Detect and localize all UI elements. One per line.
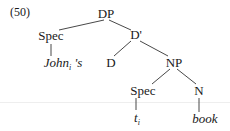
leaf-trace: ti [134,111,140,124]
node-dbar: D' [130,28,142,41]
node-spec-lower: Spec [130,84,155,97]
edge-dbar-np [140,41,168,56]
edge-dp-dbar [109,20,131,30]
node-n: N [194,84,203,97]
example-number: (50) [10,6,30,19]
node-dp: DP [98,7,115,20]
edge-np-n [177,69,196,84]
edge-dp-spec [59,20,104,30]
johns-suffix: 's [71,55,82,70]
johns-word: John [44,55,69,70]
leaf-johns: Johni 's [44,56,83,69]
node-np: NP [166,56,183,69]
edge-dbar-d [114,41,131,56]
edge-np-spec [152,69,170,84]
node-d: D [106,56,115,69]
trace-index: i [138,118,140,127]
node-spec-top: Spec [38,29,63,42]
leaf-book: book [192,112,217,125]
